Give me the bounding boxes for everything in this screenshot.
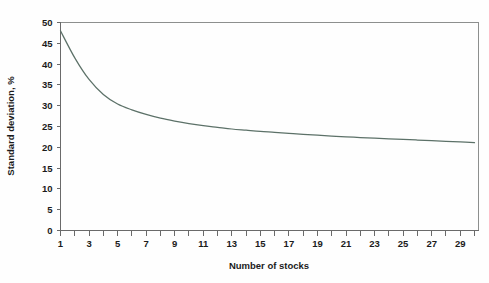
y-axis-title: Standard deviation, %	[5, 76, 16, 176]
y-tick-label: 25	[42, 121, 53, 132]
x-tick-label: 3	[86, 238, 91, 249]
x-tick-label: 29	[455, 238, 466, 249]
x-axis-tick-labels: 1357911131517192123252729	[58, 238, 466, 249]
x-tick-label: 7	[144, 238, 149, 249]
y-tick-label: 0	[47, 225, 52, 236]
y-tick-label: 20	[42, 142, 53, 153]
standard-deviation-vs-number-of-stocks-chart: 05101520253035404550 1357911131517192123…	[0, 0, 489, 283]
x-axis-title: Number of stocks	[229, 260, 309, 271]
x-tick-label: 5	[115, 238, 121, 249]
y-tick-label: 50	[42, 17, 53, 28]
y-tick-label: 40	[42, 59, 53, 70]
x-tick-label: 13	[227, 238, 238, 249]
y-tick-label: 30	[42, 100, 53, 111]
x-tick-label: 17	[284, 238, 295, 249]
chart-figure: 05101520253035404550 1357911131517192123…	[0, 0, 489, 283]
y-tick-label: 15	[42, 163, 53, 174]
y-tick-label: 35	[42, 79, 53, 90]
y-tick-label: 45	[42, 38, 53, 49]
x-tick-label: 23	[369, 238, 380, 249]
x-tick-label: 27	[426, 238, 437, 249]
x-tick-label: 1	[58, 238, 64, 249]
x-tick-label: 19	[312, 238, 323, 249]
x-tick-label: 25	[398, 238, 409, 249]
x-tick-label: 15	[255, 238, 266, 249]
x-tick-label: 9	[172, 238, 177, 249]
x-tick-label: 11	[198, 238, 209, 249]
x-tick-label: 21	[341, 238, 352, 249]
y-tick-label: 10	[42, 183, 53, 194]
chart-background	[0, 0, 489, 283]
y-tick-label: 5	[47, 204, 53, 215]
